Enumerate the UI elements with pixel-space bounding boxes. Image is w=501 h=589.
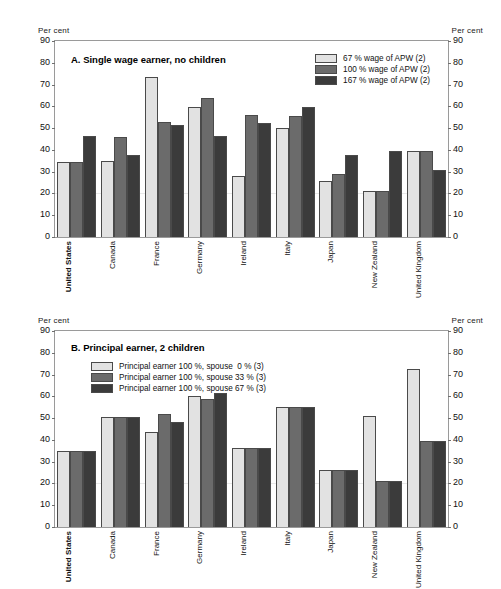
y-axis-tickmark-left-80	[52, 353, 55, 354]
bar	[276, 407, 289, 527]
bar	[389, 151, 402, 237]
y-axis-tickmark-left-10	[52, 215, 55, 216]
x-axis-label-ireland: Ireland	[239, 531, 248, 555]
y-axis-tickmark-right-90	[448, 41, 451, 42]
x-axis-label-germany: Germany	[195, 531, 204, 564]
bar	[127, 417, 140, 527]
bar	[363, 416, 376, 527]
bar	[276, 128, 289, 237]
y-axis-tick-label-right-10: 10	[453, 500, 475, 509]
bar	[145, 432, 158, 527]
bar	[232, 448, 245, 527]
y-axis-tick-label-right-90: 90	[453, 326, 475, 335]
bar	[188, 396, 201, 527]
y-axis-tickmark-left-90	[52, 331, 55, 332]
y-axis-tickmark-right-10	[448, 215, 451, 216]
bar	[345, 470, 358, 527]
bar-group	[230, 331, 274, 527]
bar	[258, 448, 271, 527]
y-axis-tick-label-left-30: 30	[28, 167, 50, 176]
y-axis-tick-label-left-30: 30	[28, 457, 50, 466]
bar	[214, 393, 227, 527]
bar-group	[99, 41, 143, 237]
y-axis-tick-label-left-90: 90	[28, 326, 50, 335]
y-axis-tickmark-right-90	[448, 331, 451, 332]
x-axis-label-france: France	[152, 241, 161, 266]
bar	[201, 98, 214, 237]
y-axis-tickmark-right-70	[448, 375, 451, 376]
y-axis-tickmark-right-30	[448, 462, 451, 463]
bar-group	[55, 41, 99, 237]
y-axis-tickmark-left-80	[52, 63, 55, 64]
bar	[407, 369, 420, 527]
y-axis-tick-label-right-0: 0	[453, 232, 475, 241]
panel-a-bars	[55, 41, 448, 237]
bar-group	[186, 41, 230, 237]
bar-group	[361, 331, 405, 527]
y-axis-tick-label-left-50: 50	[28, 413, 50, 422]
bar	[345, 155, 358, 237]
bar-group	[142, 41, 186, 237]
y-axis-tickmark-left-50	[52, 128, 55, 129]
bar	[420, 441, 433, 527]
bar	[376, 481, 389, 527]
bar	[232, 176, 245, 237]
x-axis-label-new-zealand: New Zealand	[370, 531, 379, 578]
bar	[433, 170, 446, 238]
bar-group	[55, 331, 99, 527]
bar	[114, 417, 127, 527]
bar	[319, 470, 332, 527]
bar-group	[317, 41, 361, 237]
y-axis-tick-label-left-0: 0	[28, 232, 50, 241]
y-axis-tickmark-right-20	[448, 193, 451, 194]
y-axis-tickmark-left-40	[52, 150, 55, 151]
y-axis-tickmark-right-10	[448, 505, 451, 506]
x-axis-label-germany: Germany	[195, 241, 204, 274]
y-axis-tick-label-right-70: 70	[453, 80, 475, 89]
bar	[83, 451, 96, 527]
bar	[319, 181, 332, 237]
y-axis-tickmark-right-0	[448, 527, 451, 528]
bar	[389, 481, 402, 527]
bar-group	[186, 331, 230, 527]
y-axis-tickmark-left-20	[52, 483, 55, 484]
bar	[57, 451, 70, 527]
chart-panel-b: Per cent Per cent B. Principal earner, 2…	[0, 290, 501, 585]
bar	[407, 151, 420, 237]
y-axis-tickmark-left-70	[52, 85, 55, 86]
bar-group	[404, 41, 448, 237]
x-axis-label-france: France	[152, 531, 161, 556]
y-axis-tickmark-left-30	[52, 462, 55, 463]
y-axis-tick-label-left-80: 80	[28, 348, 50, 357]
bar	[171, 125, 184, 237]
y-axis-tick-label-right-90: 90	[453, 36, 475, 45]
panel-b-bars	[55, 331, 448, 527]
y-axis-tick-label-left-90: 90	[28, 36, 50, 45]
y-axis-tick-label-left-40: 40	[28, 145, 50, 154]
bar	[101, 161, 114, 237]
bar	[158, 414, 171, 527]
x-axis-label-united-states: United States	[64, 531, 73, 582]
bar	[433, 441, 446, 527]
y-axis-tick-label-right-80: 80	[453, 58, 475, 67]
bar	[70, 451, 83, 527]
x-axis-label-italy: Italy	[283, 241, 292, 256]
bar	[201, 399, 214, 527]
bar-group	[317, 331, 361, 527]
bar-group	[99, 331, 143, 527]
y-axis-tickmark-right-60	[448, 106, 451, 107]
bar	[302, 107, 315, 237]
y-axis-tick-label-right-0: 0	[453, 522, 475, 531]
y-axis-tickmark-right-80	[448, 63, 451, 64]
y-axis-tickmark-left-40	[52, 440, 55, 441]
y-axis-tickmark-left-50	[52, 418, 55, 419]
y-axis-tickmark-left-0	[52, 527, 55, 528]
bar	[289, 116, 302, 237]
bar-group	[404, 331, 448, 527]
bar	[420, 151, 433, 237]
y-axis-tick-label-left-20: 20	[28, 188, 50, 197]
bar	[83, 136, 96, 237]
y-axis-tickmark-right-40	[448, 440, 451, 441]
y-axis-tickmark-right-80	[448, 353, 451, 354]
y-axis-tick-label-right-20: 20	[453, 478, 475, 487]
